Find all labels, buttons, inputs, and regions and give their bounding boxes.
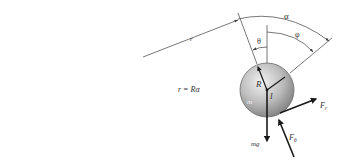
radial-force-subscript: r bbox=[325, 105, 328, 111]
arc-length-equation: r = Rα bbox=[178, 85, 200, 94]
diagram-canvas: r α θ φ R I m mg Fr bbox=[0, 0, 341, 166]
gravity-force-label: mg bbox=[251, 140, 260, 148]
alpha-label: α bbox=[284, 11, 289, 21]
phi-label: φ bbox=[295, 30, 300, 39]
theta-label: θ bbox=[257, 37, 261, 46]
phi-arc bbox=[267, 32, 313, 52]
radial-force-label: Fr bbox=[319, 101, 328, 111]
mass-label: m bbox=[247, 98, 252, 106]
inertia-label: I bbox=[269, 92, 273, 101]
r-label: r bbox=[190, 35, 193, 43]
rotated-reference-line bbox=[290, 38, 332, 73]
tangential-force-subscript: θ bbox=[294, 137, 297, 143]
initial-reference-line bbox=[238, 13, 257, 64]
tangential-force-label: Fθ bbox=[288, 133, 297, 143]
radius-label: R bbox=[255, 79, 262, 89]
physics-diagram: r α θ φ R I m mg Fr bbox=[0, 0, 341, 166]
theta-arc bbox=[253, 47, 267, 50]
